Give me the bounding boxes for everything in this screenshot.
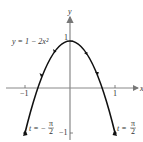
parametric-curve-diagram: y x 1 −1 1 −1 y = 1 − 2x² t = − π 2 t = …: [0, 0, 143, 142]
y-axis-label: y: [67, 7, 72, 16]
right-endpoint-label-prefix: t =: [117, 124, 127, 133]
y-tick-label-neg1: −1: [59, 128, 68, 137]
left-endpoint-label-prefix: t = −: [29, 124, 46, 133]
x-axis-label: x: [139, 84, 143, 93]
right-endpoint-label-den: 2: [131, 127, 135, 136]
y-tick-label-1: 1: [64, 33, 68, 42]
equation-label: y = 1 − 2x²: [11, 37, 49, 46]
x-tick-label-neg1: −1: [20, 89, 29, 98]
x-tick-label-1: 1: [113, 89, 117, 98]
left-endpoint-label-den: 2: [49, 127, 53, 136]
